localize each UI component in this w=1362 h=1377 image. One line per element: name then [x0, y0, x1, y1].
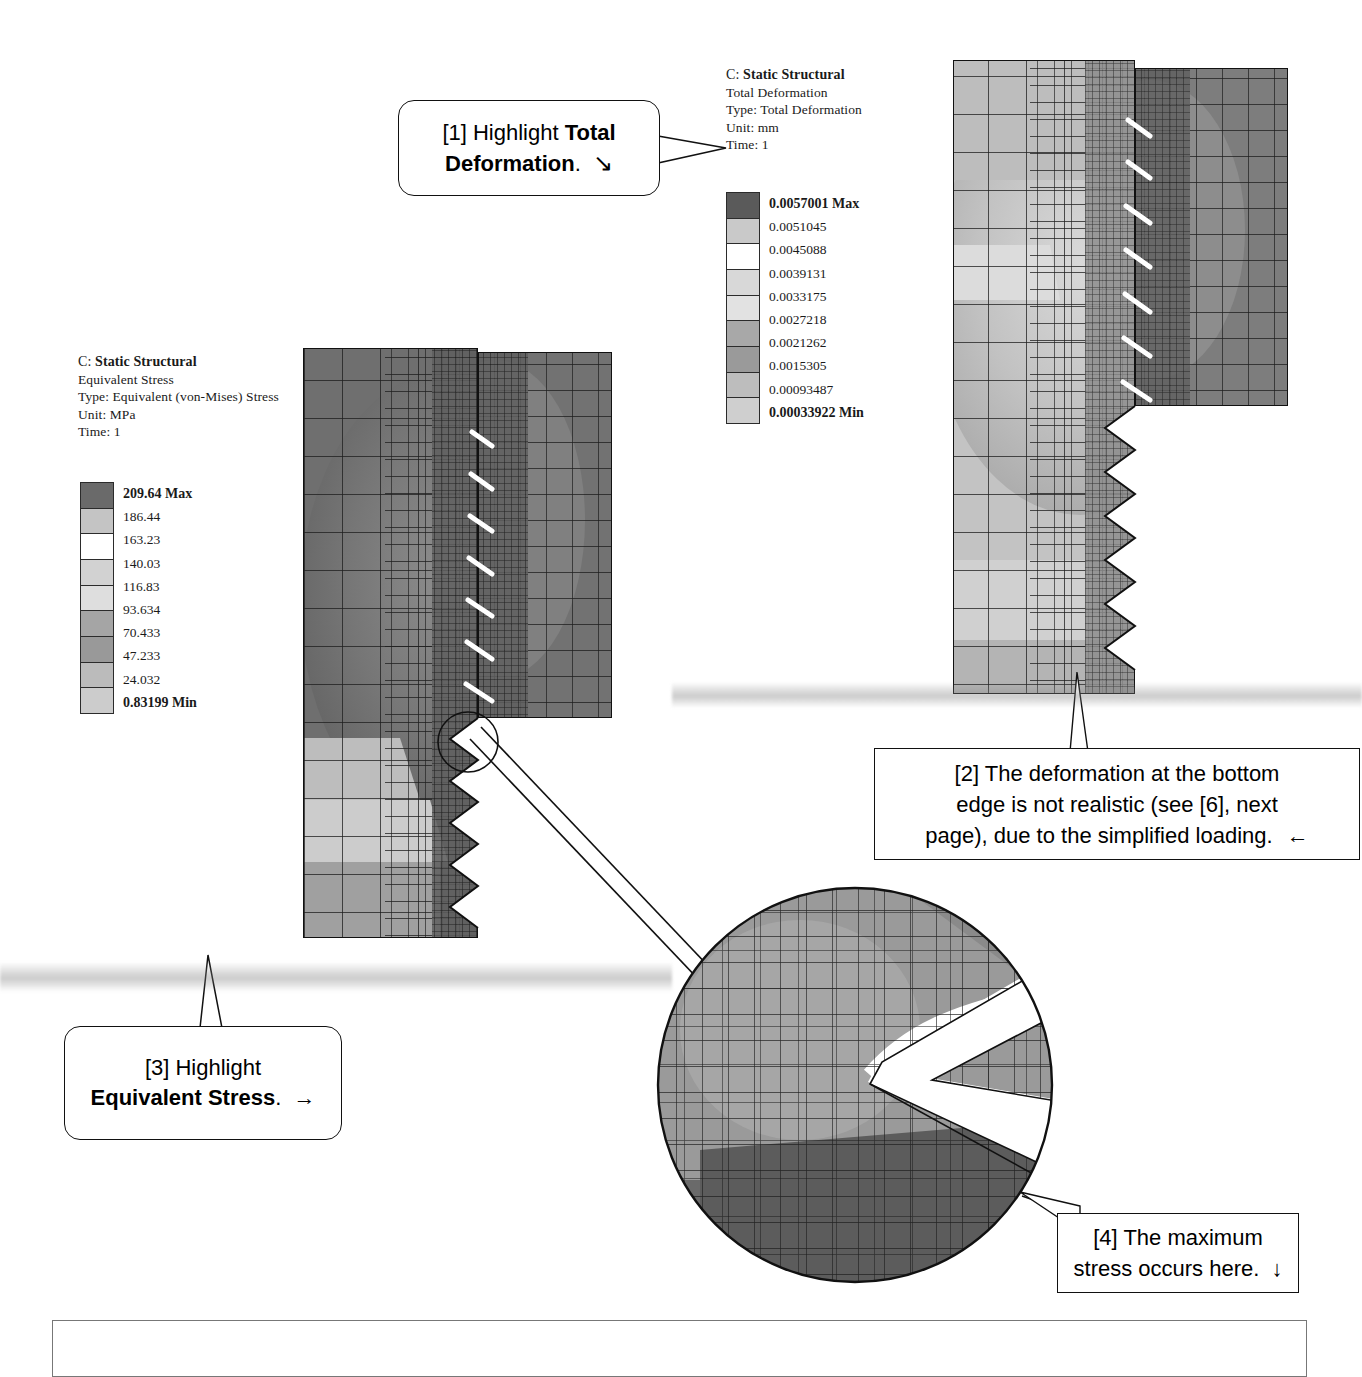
- deformation-result-header: C: Static Structural Total Deformation T…: [726, 66, 862, 154]
- callout-4-line2: stress occurs here.: [1074, 1256, 1260, 1281]
- callout-2[interactable]: [2] The deformation at the bottom edge i…: [874, 748, 1360, 860]
- callout-1-line1-prefix: [1] Highlight: [442, 120, 564, 145]
- callout-1-line1-bold: Total: [565, 120, 616, 145]
- deformation-legend-value: 0.0021262: [769, 331, 864, 354]
- stress-legend-value: 70.433: [123, 621, 197, 644]
- detail-view-border: [658, 888, 1052, 1282]
- bottom-content-frame: [52, 1320, 1307, 1377]
- callout-4-line1: [4] The maximum: [1093, 1225, 1263, 1250]
- stress-legend: 209.64 Max 186.44 163.23 140.03 116.83 9…: [80, 482, 197, 714]
- equivalent-stress-contour-plot: [300, 348, 612, 938]
- stress-unit-line: Unit: MPa: [78, 406, 279, 424]
- callout-2-line3: page), due to the simplified loading.: [925, 823, 1272, 848]
- deformation-type-line: Type: Total Deformation: [726, 101, 862, 119]
- total-deformation-contour-plot: [930, 60, 1288, 694]
- stress-legend-value: 47.233: [123, 644, 197, 667]
- stress-solver-id: C:: [78, 354, 91, 369]
- callout-3-line2-bold: Equivalent Stress: [91, 1085, 276, 1110]
- deformation-study-title: C: Static Structural: [726, 66, 862, 84]
- stress-legend-value: 186.44: [123, 505, 197, 528]
- callout-3-line1-prefix: [3] Highlight: [145, 1055, 261, 1080]
- deformation-legend-value: 0.0045088: [769, 238, 864, 261]
- scan-artifact-band-upper: [672, 682, 1362, 708]
- stress-result-header: C: Static Structural Equivalent Stress T…: [78, 353, 279, 441]
- stress-legend-value: 93.634: [123, 598, 197, 621]
- callout-1-line2-suffix: .: [575, 151, 581, 176]
- scan-artifact-band-lower: [0, 962, 672, 992]
- deformation-legend-value: 0.00033922 Min: [769, 401, 864, 424]
- stress-legend-value: 209.64 Max: [123, 482, 197, 505]
- deformation-legend-value: 0.0051045: [769, 215, 864, 238]
- deformation-legend-value: 0.0033175: [769, 285, 864, 308]
- deformation-unit-line: Unit: mm: [726, 119, 862, 137]
- callout-1-arrow-icon: ↘: [593, 149, 613, 176]
- callout-2-line1: [2] The deformation at the bottom: [955, 761, 1280, 786]
- deformation-legend-value: 0.00093487: [769, 378, 864, 401]
- stress-legend-value: 116.83: [123, 575, 197, 598]
- callout-1-line2-bold: Deformation: [445, 151, 575, 176]
- stress-legend-value: 163.23: [123, 528, 197, 551]
- stress-legend-value: 140.03: [123, 552, 197, 575]
- deformation-time-line: Time: 1: [726, 136, 862, 154]
- stress-time-line: Time: 1: [78, 423, 279, 441]
- stress-legend-value: 0.83199 Min: [123, 691, 197, 714]
- deformation-legend: 0.0057001 Max 0.0051045 0.0045088 0.0039…: [726, 192, 864, 424]
- callout-4[interactable]: [4] The maximum stress occurs here. ↓: [1057, 1213, 1299, 1293]
- stress-result-name: Equivalent Stress: [78, 371, 279, 389]
- callout-3-arrow-icon: →: [293, 1085, 315, 1110]
- stress-legend-colorbar: [80, 482, 114, 714]
- callout-3[interactable]: [3] Highlight Equivalent Stress. →: [64, 1026, 342, 1140]
- deformation-legend-value: 0.0057001 Max: [769, 192, 864, 215]
- deformation-legend-value: 0.0039131: [769, 262, 864, 285]
- stress-type-line: Type: Equivalent (von-Mises) Stress: [78, 388, 279, 406]
- deformation-solver-id: C:: [726, 67, 739, 82]
- stress-legend-value: 24.032: [123, 668, 197, 691]
- stress-legend-values: 209.64 Max 186.44 163.23 140.03 116.83 9…: [123, 482, 197, 714]
- deformation-legend-value: 0.0015305: [769, 354, 864, 377]
- callout-1-tail: [658, 136, 726, 163]
- callout-3-line2-suffix: .: [275, 1085, 281, 1110]
- detail-leader-lines: [470, 727, 905, 1183]
- callout-1[interactable]: [1] Highlight Total Deformation. ↘: [398, 100, 660, 196]
- deformation-legend-colorbar: [726, 192, 760, 424]
- thread-root-detail-magnified-view: [655, 885, 1062, 1285]
- callout-2-arrow-icon: ←: [1287, 823, 1309, 848]
- deformation-result-name: Total Deformation: [726, 84, 862, 102]
- detail-source-circle: [438, 712, 498, 772]
- callout-4-arrow-icon: ↓: [1271, 1256, 1282, 1281]
- stress-study-title: C: Static Structural: [78, 353, 279, 371]
- deformation-legend-values: 0.0057001 Max 0.0051045 0.0045088 0.0039…: [769, 192, 864, 424]
- deformation-legend-value: 0.0027218: [769, 308, 864, 331]
- callout-2-line2: edge is not realistic (see [6], next: [956, 792, 1278, 817]
